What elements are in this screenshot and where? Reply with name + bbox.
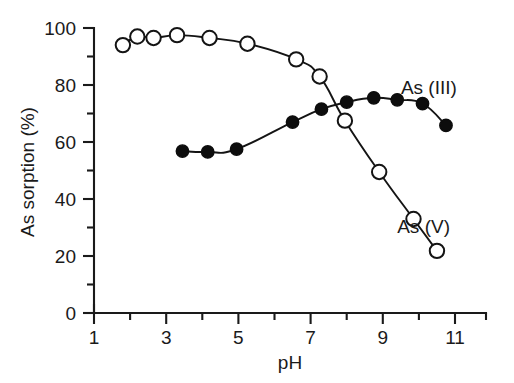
series-curve [182,98,446,153]
data-point-marker [202,31,216,45]
series-label-1: As (V) [397,216,450,237]
x-tick-label: 3 [161,327,172,348]
y-tick-label: 0 [65,303,76,324]
chart-figure: 0204060801001357911 As (V)As (III) pH As… [0,0,514,383]
x-axis-title: pH [278,352,302,373]
x-tick-label: 5 [233,327,244,348]
data-point-marker [176,145,188,157]
series-1 [116,28,444,258]
as-sorption-vs-ph-chart: 0204060801001357911 As (V)As (III) pH As… [0,0,514,383]
tick-labels: 0204060801001357911 [44,18,465,348]
tick-marks [83,28,486,324]
x-tick-label: 7 [305,327,316,348]
y-tick-label: 20 [55,246,76,267]
data-point-marker [286,116,298,128]
data-point-marker [338,113,352,127]
data-point-marker [116,38,130,52]
x-tick-label: 1 [89,327,100,348]
data-point-marker [202,146,214,158]
y-axis-title: As sorption (%) [17,107,38,237]
data-point-marker [170,28,184,42]
y-tick-label: 40 [55,189,76,210]
y-tick-label: 60 [55,132,76,153]
series-curve [123,35,437,251]
x-tick-label: 9 [378,327,389,348]
data-point-marker [440,119,452,131]
data-point-marker [146,31,160,45]
data-point-marker [368,92,380,104]
data-point-marker [341,96,353,108]
data-point-marker [430,244,444,258]
series-label-2: As (III) [401,77,457,98]
data-point-marker [372,165,386,179]
series-2 [176,92,452,159]
x-tick-label: 11 [445,327,465,348]
data-point-marker [130,29,144,43]
axes [94,28,486,313]
data-point-marker [315,103,327,115]
data-point-marker [416,97,428,109]
data-point-marker [240,36,254,50]
data-point-marker [312,69,326,83]
y-tick-label: 100 [44,18,76,39]
y-tick-label: 80 [55,75,76,96]
data-point-marker [230,143,242,155]
data-point-marker [289,52,303,66]
